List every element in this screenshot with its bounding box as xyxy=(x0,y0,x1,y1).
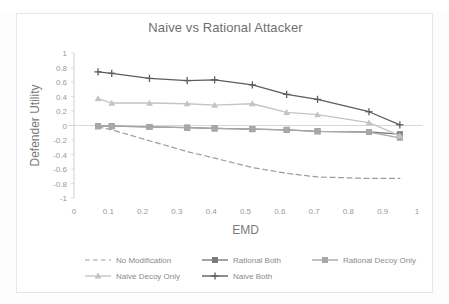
data-point-marker xyxy=(322,257,328,263)
data-point-marker xyxy=(184,125,190,131)
y-tick-label: -0.2 xyxy=(53,136,67,145)
x-tick-label: 0.4 xyxy=(206,207,218,216)
series-line xyxy=(98,99,400,136)
chart-svg: 10.80.60.40.20-0.2-0.4-0.6-0.8-100.10.20… xyxy=(17,14,434,294)
legend-label: Naive Decoy Only xyxy=(116,272,180,281)
y-tick-label: 0.8 xyxy=(56,64,68,73)
y-tick-label: 1 xyxy=(63,49,68,58)
data-point-marker xyxy=(95,95,102,101)
x-tick-label: 0.5 xyxy=(240,207,252,216)
chart-frame: Naive vs Rational Attacker 10.80.60.40.2… xyxy=(16,13,433,293)
data-point-marker xyxy=(212,257,218,263)
x-tick-label: 0.3 xyxy=(171,207,183,216)
legend-label: Rational Decoy Only xyxy=(343,256,416,265)
y-tick-label: 0.6 xyxy=(56,78,68,87)
data-point-marker xyxy=(284,127,290,133)
data-point-marker xyxy=(109,123,115,129)
data-point-marker xyxy=(95,123,101,129)
legend-item[interactable]: No Modification xyxy=(85,256,171,265)
series-line xyxy=(98,127,400,178)
chart-legend: No ModificationRational BothRational Dec… xyxy=(85,256,416,281)
legend-label: Naive Both xyxy=(233,272,272,281)
legend-item[interactable]: Rational Decoy Only xyxy=(312,256,416,265)
x-tick-label: 0.9 xyxy=(377,207,389,216)
y-tick-label: -0.8 xyxy=(53,180,67,189)
series-line xyxy=(98,126,400,138)
series-line xyxy=(98,72,400,125)
x-tick-label: 0.1 xyxy=(103,207,115,216)
y-tick-label: -0.6 xyxy=(53,165,67,174)
y-tick-label: -0.4 xyxy=(53,151,67,160)
data-point-marker xyxy=(366,129,372,135)
data-point-marker xyxy=(315,128,321,134)
legend-item[interactable]: Naive Both xyxy=(202,272,272,281)
series-no-modification xyxy=(98,127,400,178)
data-point-marker xyxy=(212,125,218,131)
legend-label: Rational Both xyxy=(233,256,281,265)
series-naive-both xyxy=(94,68,403,128)
plot-area: 10.80.60.40.20-0.2-0.4-0.6-0.8-100.10.20… xyxy=(17,14,434,294)
y-tick-label: 0 xyxy=(63,122,68,131)
y-axis-label: Defender Utility xyxy=(28,84,42,166)
x-tick-label: 0.7 xyxy=(309,207,321,216)
x-tick-label: 0.8 xyxy=(343,207,355,216)
x-axis-ticks: 00.10.20.30.40.50.60.70.80.91 xyxy=(72,207,420,216)
x-tick-label: 0.2 xyxy=(137,207,149,216)
page-top-margin xyxy=(0,0,449,12)
x-tick-label: 1 xyxy=(415,207,420,216)
data-point-marker xyxy=(249,126,255,132)
y-tick-label: 0.4 xyxy=(56,93,68,102)
data-point-marker xyxy=(146,124,152,130)
legend-label: No Modification xyxy=(116,256,171,265)
y-tick-label: 0.2 xyxy=(56,107,68,116)
chart-page: Naive vs Rational Attacker 10.80.60.40.2… xyxy=(0,0,449,304)
x-tick-label: 0.6 xyxy=(274,207,286,216)
x-tick-label: 0 xyxy=(72,207,77,216)
legend-item[interactable]: Naive Decoy Only xyxy=(85,272,180,281)
x-axis-label: EMD xyxy=(232,223,259,237)
y-tick-label: -1 xyxy=(60,194,68,203)
legend-item[interactable]: Rational Both xyxy=(202,256,281,265)
